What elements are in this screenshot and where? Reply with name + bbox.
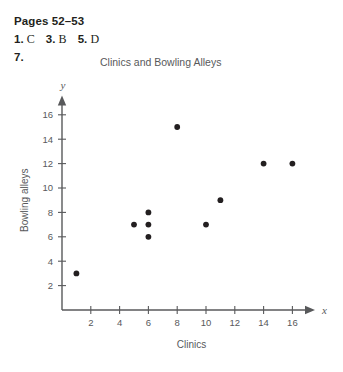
scatter-chart: Clinics and Bowling Alleys 2468101214162…: [0, 48, 343, 372]
answer-value-5: D: [90, 32, 99, 46]
y-axis-arrow-icon: [58, 96, 66, 106]
data-point: [203, 222, 209, 228]
x-tick-label: 2: [88, 317, 93, 328]
x-tick-label: 10: [201, 317, 212, 328]
data-point: [131, 222, 137, 228]
x-tick-label: 6: [146, 317, 151, 328]
x-tick-label: 8: [175, 317, 180, 328]
plot-svg: 246810121416246810121416xyClinicsBowling…: [0, 48, 343, 372]
x-tick-label: 12: [230, 317, 241, 328]
answer-value-3: B: [59, 32, 67, 46]
data-point: [290, 161, 296, 167]
x-tick-label: 14: [258, 317, 269, 328]
y-tick-label: 6: [48, 231, 53, 242]
answer-value-1: C: [27, 32, 35, 46]
y-axis-variable-label: y: [60, 79, 66, 91]
x-axis-variable-label: x: [321, 304, 327, 316]
data-point: [146, 222, 152, 228]
pages-label: Pages 52–53: [14, 14, 314, 28]
y-tick-label: 12: [42, 158, 53, 169]
y-tick-label: 2: [48, 280, 53, 291]
data-point: [146, 234, 152, 240]
y-tick-label: 10: [42, 182, 53, 193]
answer-number-1: 1.: [14, 33, 24, 45]
answer-number-5: 5.: [78, 33, 88, 45]
y-tick-label: 14: [42, 134, 53, 145]
x-axis-arrow-icon: [305, 306, 315, 314]
x-axis-title: Clinics: [177, 339, 206, 350]
data-point: [146, 210, 152, 216]
data-point: [218, 197, 224, 203]
x-tick-label: 16: [287, 317, 298, 328]
y-tick-label: 4: [48, 256, 53, 267]
y-tick-label: 16: [42, 109, 53, 120]
y-tick-label: 8: [48, 207, 53, 218]
y-axis-title: Bowling alleys: [19, 169, 30, 232]
x-tick-label: 4: [117, 317, 122, 328]
answer-list: 1. C3. B5. D: [14, 32, 314, 47]
data-point: [261, 161, 267, 167]
data-point: [74, 271, 80, 277]
data-point: [174, 124, 180, 130]
answer-number-3: 3.: [46, 33, 56, 45]
